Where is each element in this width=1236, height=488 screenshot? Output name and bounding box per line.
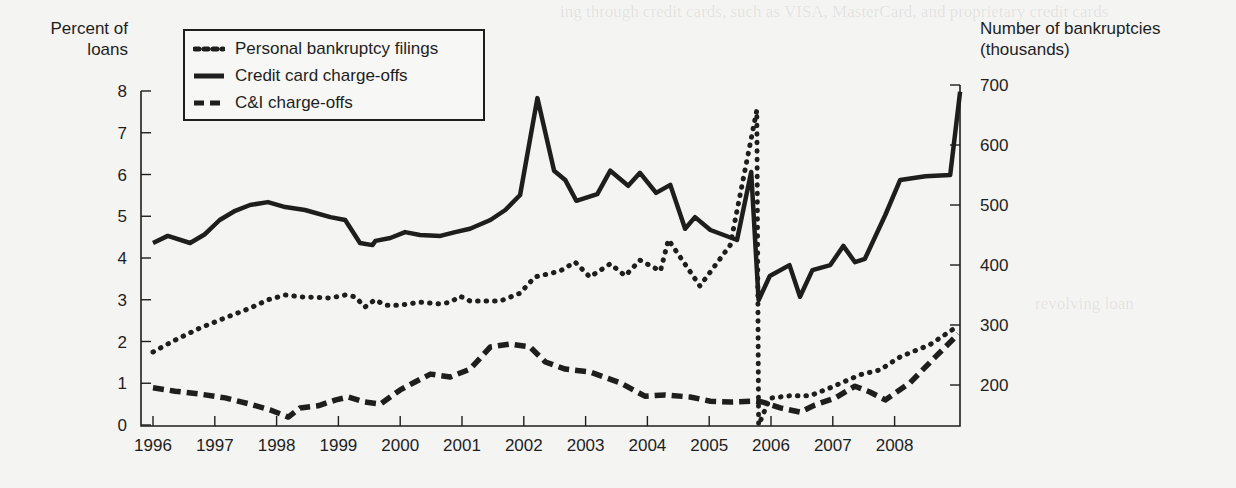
x-tick-label: 1999 (319, 436, 357, 455)
left-tick-label: 2 (118, 333, 127, 352)
x-tick-label: 1997 (196, 436, 234, 455)
solid-line-icon (193, 71, 225, 81)
left-tick-label: 5 (118, 207, 127, 226)
left-tick-label: 1 (118, 374, 127, 393)
left-tick-label: 6 (118, 166, 127, 185)
right-tick-label: 400 (980, 256, 1008, 275)
legend-label: Credit card charge-offs (235, 66, 408, 86)
chart-series (153, 92, 960, 425)
right-tick-label: 500 (980, 196, 1008, 215)
x-tick-label: 2001 (443, 436, 481, 455)
x-tick-label: 2003 (567, 436, 605, 455)
legend-label: Personal bankruptcy filings (235, 39, 438, 59)
x-tick-label: 2000 (381, 436, 419, 455)
x-tick-label: 1996 (134, 436, 172, 455)
left-tick-label: 3 (118, 291, 127, 310)
right-tick-label: 200 (980, 376, 1008, 395)
left-tick-label: 0 (118, 416, 127, 435)
dotted-line-icon (193, 44, 225, 54)
legend-label: C&I charge-offs (235, 93, 353, 113)
chart-axes: 0123456782003004005006007001996199719981… (118, 76, 1009, 455)
legend-item-bankruptcy: Personal bankruptcy filings (193, 35, 483, 62)
x-tick-label: 2005 (690, 436, 728, 455)
x-tick-label: 2006 (752, 436, 790, 455)
x-tick-label: 2008 (876, 436, 914, 455)
x-tick-label: 1998 (258, 436, 296, 455)
right-tick-label: 600 (980, 136, 1008, 155)
series-c-i-charge-offs (153, 334, 958, 417)
dashed-line-icon (193, 98, 225, 108)
chart-legend: Personal bankruptcy filings Credit card … (183, 29, 485, 121)
x-tick-label: 2002 (505, 436, 543, 455)
left-tick-label: 7 (118, 124, 127, 143)
left-tick-label: 8 (118, 82, 127, 101)
series-credit-card-charge-offs (153, 92, 960, 300)
series-personal-bankruptcy-filings (153, 110, 958, 425)
x-tick-label: 2004 (628, 436, 666, 455)
left-tick-label: 4 (118, 249, 127, 268)
right-tick-label: 300 (980, 316, 1008, 335)
x-tick-label: 2007 (814, 436, 852, 455)
legend-item-ci: C&I charge-offs (193, 89, 483, 116)
legend-item-credit-card: Credit card charge-offs (193, 62, 483, 89)
right-tick-label: 700 (980, 76, 1008, 95)
